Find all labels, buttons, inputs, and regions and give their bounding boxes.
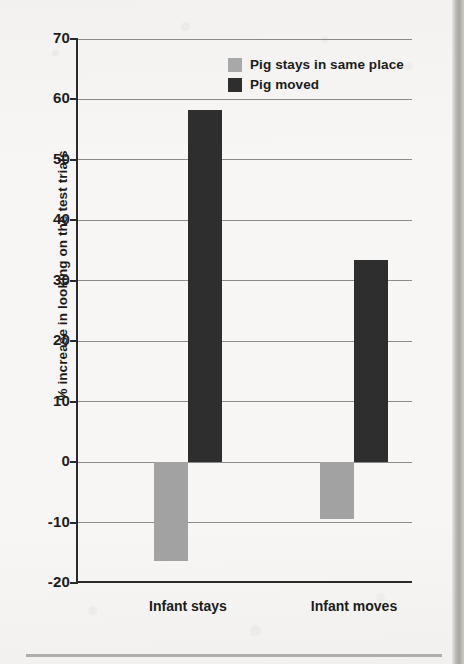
- gridline: [78, 220, 412, 221]
- legend-item-label: Pig stays in same place: [250, 57, 404, 72]
- x-axis-tick-label: Infant moves: [294, 598, 414, 614]
- plot-area: [78, 39, 412, 583]
- legend-swatch-light-icon: [228, 58, 242, 72]
- bar: [320, 462, 354, 519]
- gridline: [78, 159, 412, 160]
- y-axis-tick: [70, 98, 78, 100]
- y-axis-tick-label: 10: [24, 392, 70, 409]
- legend-item-label: Pig moved: [250, 77, 319, 92]
- y-axis-tick-label: 50: [24, 150, 70, 167]
- gridline: [78, 522, 412, 523]
- legend-swatch-dark-icon: [228, 78, 242, 92]
- gridline: [78, 99, 412, 100]
- y-axis-tick-label: -10: [24, 513, 70, 530]
- bar: [188, 110, 222, 462]
- y-axis-tick-label: 0: [24, 452, 70, 469]
- y-axis-tick-label: 40: [24, 210, 70, 227]
- y-axis-tick: [70, 401, 78, 403]
- y-axis-tick-label: -20: [24, 573, 70, 590]
- y-axis-tick: [70, 522, 78, 524]
- y-axis-tick: [70, 38, 78, 40]
- y-axis-tick: [70, 340, 78, 342]
- y-axis-tick-label: 60: [24, 89, 70, 106]
- bar: [154, 462, 188, 561]
- gridline: [78, 39, 412, 40]
- bar-chart: % increase in looking on the test trials…: [0, 0, 464, 664]
- y-axis-tick-labels: 706050403020100-10-20: [22, 39, 70, 583]
- chart-legend: Pig stays in same place Pig moved: [228, 56, 406, 96]
- y-axis-tick-label: 70: [24, 29, 70, 46]
- y-axis-tick-label: 20: [24, 331, 70, 348]
- legend-item: Pig stays in same place: [228, 56, 406, 73]
- y-axis-tick: [70, 582, 78, 584]
- y-axis-tick-label: 30: [24, 271, 70, 288]
- legend-item: Pig moved: [228, 76, 406, 93]
- y-axis-tick: [70, 159, 78, 161]
- x-axis-tick-label: Infant stays: [128, 598, 248, 614]
- y-axis-tick: [70, 280, 78, 282]
- bar: [354, 260, 388, 462]
- y-axis-tick: [70, 219, 78, 221]
- y-axis-tick: [70, 461, 78, 463]
